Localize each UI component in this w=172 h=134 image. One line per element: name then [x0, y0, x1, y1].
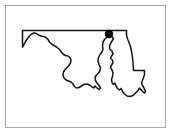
maryland-outline-map [0, 0, 172, 134]
city-dot-marker [105, 30, 113, 38]
figure-root [0, 0, 172, 134]
state-boundary-path [23, 31, 146, 97]
